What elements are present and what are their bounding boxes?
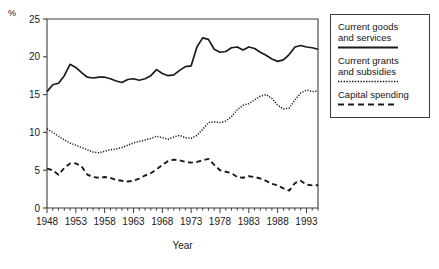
y-axis-tick-label: 0 [34,203,40,214]
legend-swatch-dashed [338,102,398,107]
chart-legend: Current goods and services Current grant… [330,14,430,118]
legend-entry-current-goods-and-services: Current goods and services [338,21,423,50]
y-axis-tick-label: 15 [29,89,41,100]
legend-entry-capital-spending: Capital spending [338,89,423,107]
legend-swatch-dotted [338,79,398,84]
x-axis-tick-label: 1993 [295,216,318,227]
plot-frame [47,19,318,208]
x-axis-tick-label: 1948 [36,216,59,227]
series-line-dashed [47,159,318,191]
legend-swatch-solid [338,45,398,50]
y-axis-tick-label: 5 [34,165,40,176]
legend-label-current-goods-and-services: Current goods and services [338,21,423,43]
legend-label-capital-spending: Capital spending [338,89,423,100]
y-axis-tick-label: 25 [29,14,41,25]
x-axis-tick-label: 1968 [151,216,174,227]
y-axis-tick-label: 20 [29,51,41,62]
x-axis-tick-label: 1973 [180,216,203,227]
x-axis-tick-label: 1953 [65,216,88,227]
x-axis-tick-label: 1963 [122,216,145,227]
series-line-dotted [47,90,318,153]
legend-label-current-grants-and-subsidies: Current grants and subsidies [338,55,423,77]
x-axis-tick-label: 1978 [209,216,232,227]
series-line-solid [47,38,318,92]
chart-figure: % 05101520251948195319581963196819731978… [0,0,439,269]
x-axis-tick-label: 1988 [267,216,290,227]
x-axis-tick-label: 1958 [94,216,117,227]
y-axis-tick-label: 10 [29,127,41,138]
y-axis-unit-label: % [8,8,16,18]
x-axis-tick-label: 1983 [238,216,261,227]
line-chart-plot: 0510152025194819531958196319681973197819… [0,0,365,245]
x-axis-title: Year [0,240,365,251]
legend-entry-current-grants-and-subsidies: Current grants and subsidies [338,55,423,84]
